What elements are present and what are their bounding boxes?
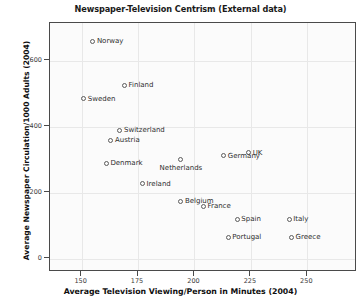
data-point-marker[interactable]	[122, 83, 127, 88]
data-point-marker[interactable]	[81, 96, 86, 101]
data-point-marker[interactable]	[108, 138, 113, 143]
x-tick-mark	[80, 271, 81, 276]
y-tick-mark	[44, 257, 49, 258]
x-tick-label: 250	[300, 277, 312, 285]
scatter-chart-figure: Newspaper-Television Centrism (External …	[0, 0, 361, 305]
data-point-marker[interactable]	[90, 39, 95, 44]
x-tick-label: 150	[74, 277, 86, 285]
y-tick-label: 400	[30, 122, 42, 130]
y-tick-label: 600	[30, 56, 42, 64]
gridline-horizontal	[50, 127, 355, 128]
data-point-marker[interactable]	[178, 199, 183, 204]
plot-area: NorwayFinlandSwedenSwitzerlandAustriaDen…	[49, 22, 356, 271]
data-point-marker[interactable]	[104, 161, 109, 166]
y-tick-label: 200	[30, 188, 42, 196]
data-point-label: Portugal	[232, 233, 261, 241]
data-point-marker[interactable]	[201, 204, 206, 209]
x-tick-mark	[249, 271, 250, 276]
gridline-horizontal	[50, 193, 355, 194]
data-point-marker[interactable]	[140, 181, 145, 186]
data-point-label: Germany	[228, 152, 260, 160]
y-axis-title: Average Newspaper Circulation/1000 Adult…	[22, 31, 31, 271]
gridline-horizontal	[50, 259, 355, 260]
data-point-marker[interactable]	[235, 217, 240, 222]
x-tick-label: 175	[131, 277, 143, 285]
data-point-label: Norway	[97, 37, 124, 45]
gridline-horizontal	[50, 61, 355, 62]
chart-title: Newspaper-Television Centrism (External …	[0, 4, 361, 14]
y-tick-mark	[44, 59, 49, 60]
data-point-label: Spain	[241, 215, 261, 223]
data-point-label: Finland	[128, 81, 153, 89]
y-tick-label: 0	[38, 254, 42, 262]
x-tick-label: 200	[187, 277, 199, 285]
x-axis-title: Average Television Viewing/Person in Min…	[0, 287, 361, 296]
data-point-label: Italy	[293, 215, 308, 223]
data-point-label: Denmark	[110, 159, 142, 167]
data-point-marker[interactable]	[117, 128, 122, 133]
data-point-marker[interactable]	[226, 235, 231, 240]
data-point-marker[interactable]	[287, 217, 292, 222]
x-tick-mark	[306, 271, 307, 276]
x-tick-mark	[137, 271, 138, 276]
y-tick-mark	[44, 191, 49, 192]
data-point-label: France	[208, 202, 231, 210]
data-point-label: Ireland	[147, 180, 171, 188]
y-tick-mark	[44, 125, 49, 126]
data-point-label: Austria	[115, 136, 140, 144]
data-point-marker[interactable]	[178, 157, 183, 162]
data-point-label: Switzerland	[124, 126, 165, 134]
x-tick-mark	[193, 271, 194, 276]
x-tick-label: 225	[244, 277, 256, 285]
data-point-marker[interactable]	[289, 235, 294, 240]
data-point-marker[interactable]	[221, 153, 226, 158]
data-point-label: Greece	[296, 233, 321, 241]
data-point-label: Netherlands	[160, 164, 203, 172]
data-point-label: Sweden	[88, 95, 116, 103]
